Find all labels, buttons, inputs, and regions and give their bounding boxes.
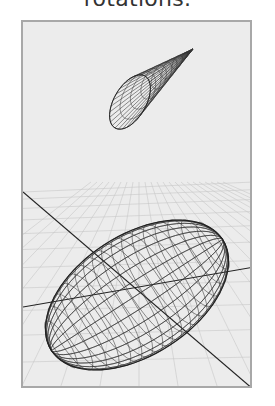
cone <box>110 49 193 129</box>
caption-text: rotations. <box>0 0 275 11</box>
coordinate-axes <box>23 192 252 388</box>
ellipsoid <box>45 220 230 371</box>
3d-viewport[interactable] <box>21 20 252 388</box>
scene-canvas <box>23 22 252 388</box>
